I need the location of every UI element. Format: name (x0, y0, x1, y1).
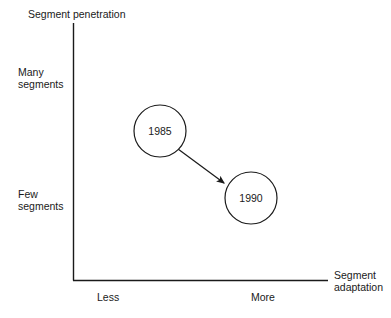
node-1990[interactable]: 1990 (225, 172, 277, 224)
node-1985-label: 1985 (148, 125, 172, 137)
nodes-group: 1985 1990 (0, 0, 391, 318)
diagram-canvas: Segment penetration Manysegments Fewsegm… (0, 0, 391, 318)
node-1985[interactable]: 1985 (134, 105, 186, 157)
transition-arrow (178, 149, 224, 183)
node-1990-label: 1990 (239, 192, 263, 204)
